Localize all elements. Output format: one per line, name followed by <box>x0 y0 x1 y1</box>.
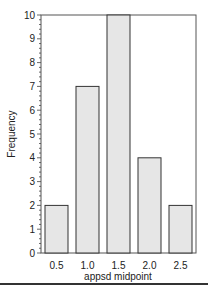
x-tick-label: 1.5 <box>112 260 126 271</box>
y-tick-label: 9 <box>29 33 35 44</box>
y-tick-label: 0 <box>29 248 35 259</box>
y-tick-label: 3 <box>29 176 35 187</box>
y-tick-label: 1 <box>29 224 35 235</box>
x-tick-label: 2.5 <box>174 260 188 271</box>
x-tick-label: 2.0 <box>143 260 157 271</box>
x-axis-label: appsd midpoint <box>84 271 152 282</box>
x-axis-tick-labels: 0.51.01.52.02.5 <box>50 260 188 271</box>
y-tick-label: 10 <box>24 10 36 21</box>
y-tick-label: 8 <box>29 57 35 68</box>
y-tick-label: 2 <box>29 200 35 211</box>
y-tick-label: 7 <box>29 81 35 92</box>
bottom-divider <box>0 283 208 285</box>
bar-2.5 <box>169 205 192 253</box>
y-tick-label: 4 <box>29 152 35 163</box>
y-axis-label: Frequency <box>6 110 17 157</box>
x-tick-label: 1.0 <box>81 260 95 271</box>
y-tick-label: 6 <box>29 105 35 116</box>
bar-0.5 <box>45 205 68 253</box>
y-tick-label: 5 <box>29 129 35 140</box>
histogram-chart: 012345678910 0.51.01.52.02.5 Frequency a… <box>0 0 208 295</box>
y-axis-ticks: 012345678910 <box>24 10 41 259</box>
x-tick-label: 0.5 <box>50 260 64 271</box>
bar-2.0 <box>138 158 161 253</box>
bar-1.5 <box>107 15 130 253</box>
bar-1.0 <box>76 86 99 253</box>
